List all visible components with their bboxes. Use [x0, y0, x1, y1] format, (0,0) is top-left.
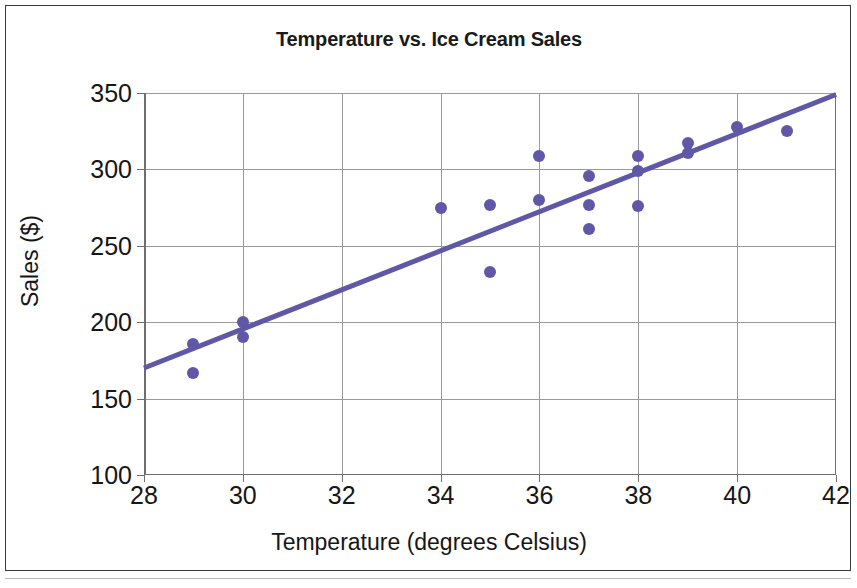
x-axis-line [144, 474, 836, 476]
x-tick-label: 40 [723, 481, 751, 510]
chart-title: Temperature vs. Ice Cream Sales [6, 28, 852, 51]
y-tick-mark [137, 169, 144, 170]
x-tick-label: 36 [526, 481, 554, 510]
trendline-segment [144, 95, 836, 369]
plot-right-border [835, 93, 836, 475]
scatter-point [484, 266, 496, 278]
y-tick-mark [137, 93, 144, 94]
scatter-point [583, 170, 595, 182]
scatter-point [237, 331, 249, 343]
y-axis-line [144, 93, 146, 475]
gridline-vertical [342, 93, 343, 475]
y-tick-mark [137, 246, 144, 247]
scatter-point [484, 199, 496, 211]
gridline-vertical [243, 93, 244, 475]
scatter-point [533, 150, 545, 162]
x-axis-title: Temperature (degrees Celsius) [6, 529, 852, 556]
scatter-point [187, 338, 199, 350]
scatter-point [632, 200, 644, 212]
scatter-point [632, 150, 644, 162]
y-tick-label: 200 [90, 308, 132, 337]
x-tick-label: 32 [328, 481, 356, 510]
plot-area: 100150200250300350 2830323436384042 [144, 93, 836, 475]
y-tick-label: 350 [90, 79, 132, 108]
x-tick-label: 38 [624, 481, 652, 510]
gridline-horizontal [144, 169, 836, 170]
scatter-point [187, 367, 199, 379]
scatter-point [435, 202, 447, 214]
y-tick-mark [137, 399, 144, 400]
scatter-point [237, 316, 249, 328]
y-tick-label: 300 [90, 155, 132, 184]
y-tick-label: 100 [90, 461, 132, 490]
y-tick-mark [137, 475, 144, 476]
chart-frame: Temperature vs. Ice Cream Sales Sales ($… [5, 5, 851, 571]
gridline-vertical [737, 93, 738, 475]
x-tick-label: 34 [427, 481, 455, 510]
y-tick-mark [137, 322, 144, 323]
x-tick-label: 28 [130, 481, 158, 510]
scatter-point [731, 121, 743, 133]
x-tick-label: 42 [822, 481, 850, 510]
gridline-vertical [441, 93, 442, 475]
y-tick-label: 250 [90, 231, 132, 260]
x-tick-label: 30 [229, 481, 257, 510]
gridline-horizontal [144, 246, 836, 247]
scatter-point [583, 199, 595, 211]
scatter-point [632, 165, 644, 177]
scatter-point [682, 147, 694, 159]
scatter-point [533, 194, 545, 206]
scatter-point [781, 125, 793, 137]
scatter-point [583, 223, 595, 235]
y-axis-title: Sales ($) [17, 215, 44, 307]
gridline-horizontal [144, 399, 836, 400]
trendline [144, 93, 836, 475]
page-bottom-edge [5, 578, 851, 579]
y-tick-label: 150 [90, 384, 132, 413]
gridline-horizontal [144, 93, 836, 94]
